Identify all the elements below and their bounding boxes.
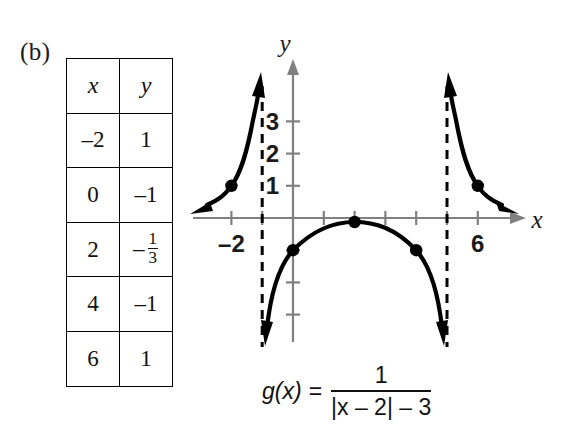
data-point-4--1 [410, 244, 422, 256]
table-cell-x: 4 [67, 277, 120, 332]
table-row: 0 –1 [67, 168, 173, 223]
y-axis-label: y [276, 30, 291, 57]
fraction-stack: 1 3 [147, 230, 160, 267]
x-tick-label-6: 6 [471, 230, 484, 257]
data-point-2--1over3 [348, 216, 360, 228]
y-tick-label-2: 2 [266, 140, 279, 167]
y-tick-label-1: 1 [266, 172, 279, 199]
table-row: 6 1 [67, 331, 173, 386]
figure-panel: (b) x y –2 1 0 –1 2 – 1 [0, 0, 577, 439]
table-cell-y: 1 [120, 331, 173, 386]
table-header-x: x [67, 59, 120, 114]
fraction-numerator: 1 [147, 230, 160, 248]
table-row: 4 –1 [67, 277, 173, 332]
table-cell-y: –1 [120, 168, 173, 223]
table-cell-x: –2 [67, 113, 120, 168]
part-label: (b) [20, 38, 51, 66]
equation-denominator: |x – 2| – 3 [331, 392, 431, 421]
value-table: x y –2 1 0 –1 2 – 1 3 [66, 58, 173, 387]
table-cell-x: 0 [67, 168, 120, 223]
data-point-0--1 [287, 244, 299, 256]
equation-lhs: g(x) [262, 378, 309, 405]
curve-left-lower-arrow [190, 202, 213, 214]
table-row: –2 1 [67, 113, 173, 168]
function-graph: y x –2 6 1 2 3 [185, 20, 577, 360]
data-point--2-1 [225, 180, 237, 192]
curve-left-upper-arrow [252, 72, 265, 98]
table-cell-y-fraction: – 1 3 [120, 222, 173, 277]
x-tick-label--2: –2 [218, 230, 245, 257]
fraction-denominator: 3 [147, 249, 160, 267]
data-point-6-1 [472, 180, 484, 192]
table-header-row: x y [67, 59, 173, 114]
table-cell-x: 2 [67, 222, 120, 277]
equation-equals: = [309, 378, 331, 405]
table-row: 2 – 1 3 [67, 222, 173, 277]
table-header-y: y [120, 59, 173, 114]
equation-fraction: 1 |x – 2| – 3 [331, 362, 431, 421]
fraction: – 1 3 [133, 230, 159, 267]
y-axis-arrow [287, 59, 299, 75]
fraction-sign: – [133, 236, 147, 262]
table-cell-y: 1 [120, 113, 173, 168]
x-axis-label: x [530, 206, 542, 233]
equation-numerator: 1 [331, 362, 431, 390]
table-cell-x: 6 [67, 331, 120, 386]
y-tick-label-3: 3 [266, 108, 279, 135]
table-cell-y: –1 [120, 277, 173, 332]
function-equation: g(x) = 1 |x – 2| – 3 [262, 362, 431, 421]
curve-right-upper-arrow [444, 72, 457, 98]
